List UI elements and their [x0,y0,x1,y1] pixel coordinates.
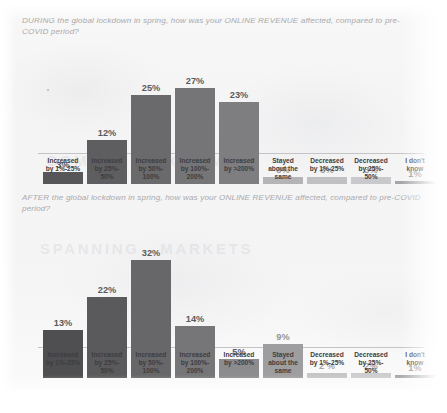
x-axis-label: Increasedby 1%-25% [41,348,85,378]
x-axis-label-line3: 200% [187,173,204,180]
x-axis-label-line1: Increased [224,351,255,358]
x-axis-label-line1: Increased [180,157,211,164]
bar-value-label: 12% [79,128,135,138]
x-axis-label-line2: by 25%- [359,165,384,172]
x-axis-label-line3: 50% [100,367,113,374]
x-axis-label-line1: Decreased [354,351,387,358]
x-axis-label-line1: I don't [405,351,425,358]
x-axis-label-line1: Increased [48,351,79,358]
chart-after-plot: 13% 22% 32% 14% 5% 9% [30,223,428,378]
x-axis-label-line2: by 100%- [181,165,210,172]
x-axis-label-line2: by 50%- [139,359,164,366]
chart-after-title: AFTER the global lockdown in spring, how… [22,193,426,214]
x-axis-label-line2: by 25%- [359,359,384,366]
x-axis-label-line3: 50% [364,173,377,180]
chart-during-plot: 3% 12% 25% 27% 23% 3% [30,44,428,184]
x-axis-label-line1: Increased [48,157,79,164]
x-axis-label: Increasedby 100%-200% [173,348,217,378]
x-axis-label: Increasedby 100%-200% [173,154,217,184]
x-axis-label: Decreasedby 1%-25% [305,154,349,184]
x-axis-label-line2: know [407,165,424,172]
x-axis-label-line1: I don't [405,157,425,164]
x-axis-label-line1: Increased [224,157,255,164]
x-axis-label-line1: Increased [136,157,167,164]
x-axis-label: Increasedby 25%-50% [85,154,129,184]
x-axis-label-line3: same [275,367,292,374]
x-axis-label-line1: Decreased [310,351,343,358]
bar-value-label: 14% [167,314,223,324]
x-axis-label-line3: 100% [143,367,160,374]
x-axis-label-line1: Increased [92,157,123,164]
x-axis-label: Decreasedby 1%-25% [305,348,349,378]
x-axis-label-line1: Decreased [310,157,343,164]
chart-after-x-axis: Increasedby 1%-25% Increasedby 25%-50% I… [30,348,428,378]
x-axis-label-line2: by 100%- [181,359,210,366]
x-axis-label-line1: Increased [180,351,211,358]
x-axis-label-line3: 200% [187,367,204,374]
x-axis-label-line2: by >200% [224,359,254,366]
x-axis-label-line3: 100% [143,173,160,180]
x-axis-label-line2: about the [268,165,298,172]
bar-value-label: 9% [255,332,311,342]
x-axis-label-line2: by 25%- [95,359,120,366]
x-axis-label: Increasedby 1%-25% [41,154,85,184]
x-axis-label-line1: Increased [92,351,123,358]
x-axis-label-line3: 50% [100,173,113,180]
x-axis-label-line1: Stayed [272,157,294,164]
bar-value-label: 22% [79,285,135,295]
x-axis-label-line2: about the [268,359,298,366]
x-axis-label-line2: by 25%- [95,165,120,172]
scanned-page: SPANNING MARKETS COMMERCE GROWTH DURING … [0,0,447,413]
x-axis-label: I don'tknow [393,348,437,378]
x-axis-label: Increasedby 50%-100% [129,348,173,378]
x-axis-label: Increasedby 25%-50% [85,348,129,378]
x-axis-label-line2: by 1%-25% [46,359,80,366]
x-axis-label-line2: by 1%-25% [310,165,344,172]
chart-during-x-axis: Increasedby 1%-25% Increasedby 25%-50% I… [30,154,428,184]
x-axis-label: Decreasedby 25%-50% [349,154,393,184]
x-axis-label: Increasedby >200% [217,154,261,184]
bar-value-label: 23% [211,90,267,100]
chart-during-title: DURING the global lockdown in spring, ho… [22,16,426,37]
x-axis-label-line2: know [407,359,424,366]
x-axis-label: Stayedabout thesame [261,348,305,378]
x-axis-label-line2: by 1%-25% [310,359,344,366]
x-axis-label-line1: Decreased [354,157,387,164]
x-axis-label: Decreasedby 25%-50% [349,348,393,378]
x-axis-label: Increasedby 50%-100% [129,154,173,184]
x-axis-label-line3: same [275,173,292,180]
x-axis-label-line1: Stayed [272,351,294,358]
x-axis-label-line2: by 50%- [139,165,164,172]
x-axis-label: I don'tknow [393,154,437,184]
x-axis-label-line2: by >200% [224,165,254,172]
x-axis-label: Increasedby >200% [217,348,261,378]
x-axis-label-line3: 50% [364,367,377,374]
bar-value-label: 32% [123,248,179,258]
x-axis-label: Stayedabout thesame [261,154,305,184]
x-axis-label-line2: by 1%-25% [46,165,80,172]
bar-value-label: 27% [167,76,223,86]
x-axis-label-line1: Increased [136,351,167,358]
bar-value-label: 13% [35,318,91,328]
